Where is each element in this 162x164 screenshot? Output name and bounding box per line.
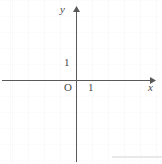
origin-label: O (64, 82, 72, 93)
coordinate-plane-figure: y x O 1 1 (0, 0, 162, 164)
x-axis-label: x (148, 82, 153, 93)
y-axis-arrowhead (73, 6, 80, 12)
x-axis-tick-label-1: 1 (88, 82, 94, 93)
bottom-divider-rule (112, 156, 162, 158)
axes-group (0, 0, 162, 164)
y-axis-label: y (60, 4, 65, 15)
y-axis-tick-label-1: 1 (64, 57, 70, 68)
